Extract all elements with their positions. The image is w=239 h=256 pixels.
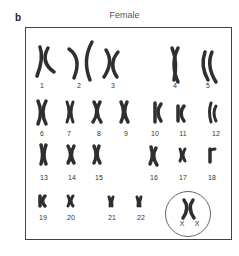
chromosome-label: 8 [91, 130, 107, 137]
chromosome-label: 12 [208, 130, 224, 137]
chromosome-label: 19 [35, 214, 51, 221]
chromosome-label: 2 [71, 82, 87, 89]
chromosome-label: 21 [104, 214, 120, 221]
chromosome-label: 10 [147, 130, 163, 137]
chromosome-label: 22 [133, 214, 149, 221]
chromosome-label: 16 [146, 174, 162, 181]
sex-chromosome-label: X [174, 220, 190, 227]
chromosome-label: 15 [91, 174, 107, 181]
chromosome-label: 14 [64, 174, 80, 181]
chromosome-label: 18 [204, 174, 220, 181]
sex-chromosome-highlight-circle [165, 191, 211, 237]
chromosome-label: 7 [61, 130, 77, 137]
chromosome-label: 5 [200, 82, 216, 89]
sex-chromosome-label: X [189, 220, 205, 227]
chromosome-label: 4 [167, 82, 183, 89]
chromosome-label: 17 [175, 174, 191, 181]
chromosome-label: 9 [118, 130, 134, 137]
chromosome-label: 6 [34, 130, 50, 137]
chromosome-label: 1 [34, 82, 50, 89]
chromosome-label: 13 [36, 174, 52, 181]
chromosome-label: 3 [105, 82, 121, 89]
chromosome-label: 11 [175, 130, 191, 137]
chromosome-label: 20 [63, 214, 79, 221]
